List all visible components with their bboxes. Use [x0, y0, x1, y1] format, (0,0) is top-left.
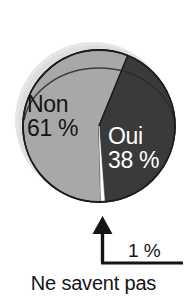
pie-chart-figure: Non 61 % Oui 38 % 1 % Ne savent pas [0, 0, 187, 300]
pie-label-oui-value: 38 % [108, 148, 159, 172]
callout-value: 1 % [128, 240, 161, 262]
pie-label-non-value: 61 % [27, 116, 78, 140]
pie-label-oui: Oui 38 % [108, 124, 159, 172]
pie-label-non-text: Non [27, 91, 68, 117]
pie-label-oui-text: Oui [108, 123, 143, 149]
leader-line-icon [103, 262, 184, 263]
pie-label-non: Non 61 % [27, 92, 78, 140]
arrow-up-icon [93, 216, 113, 262]
callout-caption: Ne savent pas [0, 272, 187, 295]
